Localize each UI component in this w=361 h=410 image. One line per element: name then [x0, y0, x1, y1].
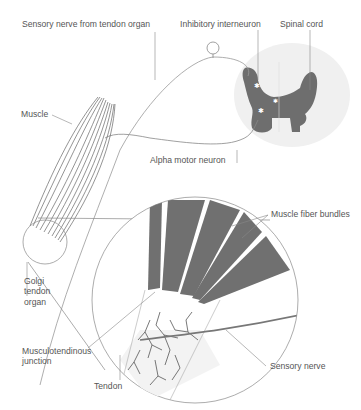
label-inhibitory-interneuron: Inhibitory interneuron [180, 19, 261, 29]
alpha-motor-neuron-path [105, 120, 258, 144]
label-spinal-cord: Spinal cord [280, 19, 323, 29]
label-golgi-tendon-organ: Golgi tendon organ [24, 276, 50, 307]
label-alpha-motor-neuron: Alpha motor neuron [150, 155, 225, 165]
label-muscle: Muscle [21, 109, 48, 119]
label-tendon: Tendon [94, 381, 122, 391]
label-sensory-nerve: Sensory nerve [270, 361, 325, 371]
label-musculotendinous-junction: Musculotendinous junction [22, 346, 91, 367]
label-sensory-nerve-from-tendon-organ: Sensory nerve from tendon organ [22, 19, 150, 29]
label-muscle-fiber-bundles: Muscle fiber bundles [271, 209, 350, 219]
neuron-star-marker: ✱ [273, 98, 278, 104]
neuron-star-marker: ✱ [254, 82, 260, 89]
muscle-fiber-bundle [148, 200, 162, 290]
neuron-star-marker: ✱ [258, 107, 264, 114]
dorsal-root-ganglion [207, 42, 219, 54]
